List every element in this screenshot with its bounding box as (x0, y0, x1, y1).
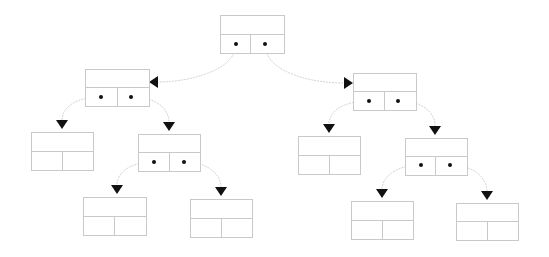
tree-node-rrl (351, 202, 414, 240)
tree-node-lrr (190, 200, 253, 238)
arrowhead-right-icon (344, 77, 353, 89)
tree-node-ll (31, 133, 94, 171)
tree-node-root (220, 16, 285, 54)
arrowhead-down-icon (111, 185, 123, 194)
arrowhead-down-icon (376, 189, 388, 198)
left-pointer-dot-icon (419, 163, 423, 167)
left-pointer-dot-icon (152, 160, 156, 164)
tree-node-rrr (456, 204, 519, 241)
tree-node-lrl (83, 198, 147, 236)
tree-node-lr (138, 135, 201, 172)
right-pointer-dot-icon (448, 163, 452, 167)
tree-node-rr (405, 139, 468, 176)
tree-node-l (85, 70, 150, 107)
arrowhead-down-icon (163, 122, 175, 131)
nodes-layer (31, 16, 519, 241)
arrowhead-down-icon (429, 126, 441, 135)
tree-node-rl (298, 137, 361, 175)
left-pointer-dot-icon (99, 95, 103, 99)
left-pointer-dot-icon (367, 99, 371, 103)
right-pointer-dot-icon (263, 42, 267, 46)
tree-node-r (353, 74, 417, 111)
left-pointer-dot-icon (234, 42, 238, 46)
binary-tree-diagram (0, 0, 549, 257)
arrowhead-left-icon (149, 76, 158, 88)
arrowhead-down-icon (56, 120, 68, 129)
right-pointer-dot-icon (396, 99, 400, 103)
arrowhead-down-icon (481, 191, 493, 200)
arrowhead-down-icon (323, 124, 335, 133)
right-pointer-dot-icon (182, 160, 186, 164)
edges-layer (56, 44, 493, 200)
right-pointer-dot-icon (129, 95, 133, 99)
arrowhead-down-icon (215, 187, 227, 196)
